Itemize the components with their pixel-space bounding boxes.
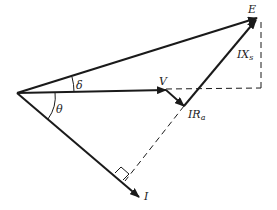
label-V: V [159, 75, 168, 88]
label-delta: δ [76, 79, 83, 92]
label-IRa: IRa [187, 108, 206, 122]
label-theta: θ [56, 103, 63, 116]
phasor-IXs [184, 20, 256, 106]
label-E: E [247, 3, 256, 16]
phasor-V [17, 90, 166, 93]
phasor-IRa [166, 90, 184, 106]
label-IXs: IXs [236, 48, 253, 62]
phasor-I [17, 93, 139, 197]
phasor-E [17, 18, 257, 93]
delta-arc [72, 77, 74, 92]
dashed-horizontal [166, 88, 261, 89]
theta-arc [48, 92, 55, 119]
label-I: I [143, 190, 149, 203]
phasor-diagram: E V I δ θ IXs IRa [0, 0, 277, 210]
dashed-perpendicular [125, 106, 184, 181]
